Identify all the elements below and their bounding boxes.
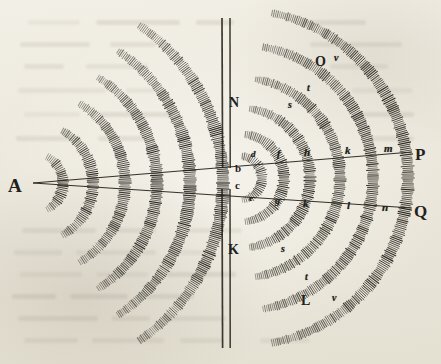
label-aperture-upper-b: b [235, 163, 241, 174]
figure-root: A N K b c P Q O L defghkklmnstvstv [0, 0, 441, 364]
label-aperture-lower-c: c [235, 180, 240, 191]
arc-letter-s-10: s [288, 100, 292, 110]
arc-letter-v-15: v [332, 293, 336, 303]
arc-letter-f-2: f [277, 149, 280, 159]
arc-letter-d-0: d [251, 150, 256, 159]
arc-letter-s-13: s [281, 244, 285, 254]
label-ray-lower-end-Q: Q [414, 203, 427, 220]
arc-letter-n-9: n [382, 202, 388, 213]
wave-diffraction-diagram [0, 0, 441, 364]
label-ray-upper-end-P: P [415, 146, 425, 163]
arc-letter-t-14: t [305, 272, 308, 282]
barrier-rule [222, 189, 223, 348]
label-barrier-bottom-K: K [228, 243, 239, 257]
arc-letter-t-11: t [307, 83, 310, 93]
arc-letter-l-7: l [347, 200, 350, 211]
label-source-A: A [8, 176, 22, 195]
arc-letter-e-1: e [249, 194, 253, 203]
arc-letter-g-3: g [275, 196, 280, 206]
arc-letter-m-8: m [384, 143, 393, 154]
arc-letter-k-6: k [345, 145, 351, 156]
incoming-wave-arcs [45, 23, 229, 344]
diffracted-wave-arcs [242, 10, 415, 347]
arc-letter-v-12: v [334, 53, 338, 63]
label-outer-upper-O: O [315, 55, 326, 69]
label-barrier-top-N: N [229, 96, 239, 110]
barrier-rule [222, 18, 223, 168]
arc-letter-k-5: k [303, 198, 309, 209]
arc-letter-h-4: h [304, 147, 310, 158]
label-outer-lower-L: L [301, 294, 310, 308]
